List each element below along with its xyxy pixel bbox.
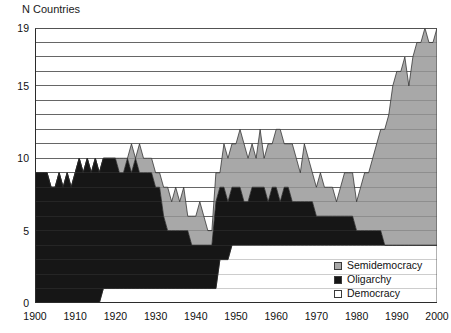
x-tick-label: 1900 <box>23 310 46 322</box>
y-tick-label: 5 <box>6 225 29 237</box>
x-tick-label: 1940 <box>184 310 207 322</box>
y-tick-label: 0 <box>6 297 29 309</box>
x-tick-label: 1910 <box>64 310 87 322</box>
legend-item-oligarchy[interactable]: Oligarchy <box>334 273 435 286</box>
legend-swatch-oligarchy <box>334 276 342 284</box>
legend-label-oligarchy: Oligarchy <box>347 273 391 286</box>
legend-label-semidemocracy: Semidemocracy <box>347 259 422 272</box>
x-tick-label: 1920 <box>104 310 127 322</box>
legend-item-semidemocracy[interactable]: Semidemocracy <box>334 259 435 272</box>
x-tick-label: 1970 <box>305 310 328 322</box>
x-tick-label: 1960 <box>265 310 288 322</box>
legend-item-democracy[interactable]: Democracy <box>334 287 435 300</box>
x-tick-label: 1950 <box>224 310 247 322</box>
y-tick-label: 15 <box>6 80 29 92</box>
x-tick-label: 1930 <box>144 310 167 322</box>
x-tick-label: 2000 <box>425 310 448 322</box>
y-axis-title: N Countries <box>22 3 80 15</box>
legend-swatch-democracy <box>334 290 342 298</box>
x-tick-label: 1980 <box>345 310 368 322</box>
legend-swatch-semidemocracy <box>334 262 342 270</box>
chart-legend: Semidemocracy Oligarchy Democracy <box>329 255 439 305</box>
chart-figure: N Countries 1900191019201930194019501960… <box>0 0 451 333</box>
y-tick-label: 19 <box>6 22 29 34</box>
legend-label-democracy: Democracy <box>347 287 400 300</box>
y-tick-label: 10 <box>6 152 29 164</box>
x-tick-label: 1990 <box>385 310 408 322</box>
